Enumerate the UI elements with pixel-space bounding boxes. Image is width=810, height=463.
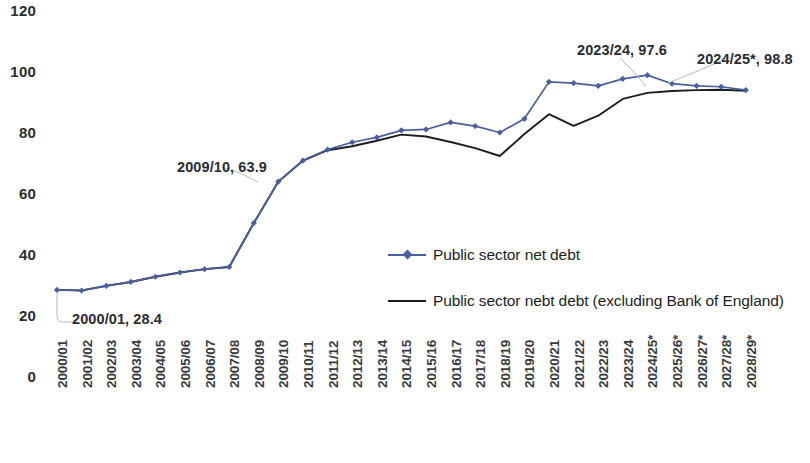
leader-line-2000 [57,292,72,322]
legend-label: Public sector net debt [433,246,580,264]
x-tick-2012-13: 2012/13 [350,340,365,388]
data-point-marker [743,87,749,93]
x-tick-2022-23: 2022/23 [596,340,611,388]
x-tick-2020-21: 2020/21 [547,340,562,388]
data-point-marker [472,123,478,129]
x-tick-2002-03: 2002/03 [104,340,119,388]
data-label-2000-01: 2000/01, 28.4 [72,311,162,327]
legend-swatch-line-icon [388,248,426,262]
data-point-marker [620,76,626,82]
legend-item-public-sector-net-debt-ex-boe: Public sector nebt debt (excluding Bank … [388,286,803,316]
legend-label: Public sector nebt debt (excluding Bank … [433,292,784,310]
x-tick-2014-15: 2014/15 [399,340,414,388]
y-tick-120: 120 [2,2,36,19]
data-point-marker [644,72,650,78]
y-tick-40: 40 [2,246,36,263]
x-tick-2017-18: 2017/18 [473,340,488,388]
x-tick-2024-25-: 2024/25* [645,335,660,388]
data-point-marker [128,279,134,285]
x-tick-2025-26-: 2025/26* [670,335,685,388]
leader-line-2023 [620,58,646,86]
data-point-marker [177,269,183,275]
x-tick-2023-24: 2023/24 [621,340,636,388]
data-point-marker [79,287,85,293]
x-tick-2004-05: 2004/05 [153,340,168,388]
line-chart: 120100806040200 2000/012001/022002/03200… [0,0,810,463]
data-point-marker [202,266,208,272]
data-point-marker [398,127,404,133]
x-tick-2003-04: 2003/04 [129,340,144,388]
x-tick-2009-10: 2009/10 [276,340,291,388]
x-tick-2008-09: 2008/09 [252,340,267,388]
x-tick-2001-02: 2001/02 [80,340,95,388]
x-tick-2013-14: 2013/14 [375,340,390,388]
x-tick-2007-08: 2007/08 [227,340,242,388]
x-tick-2028-29-: 2028/29* [744,335,759,388]
legend-item-public-sector-net-debt: Public sector net debt [388,240,803,270]
x-tick-2027-28-: 2027/28* [719,335,734,388]
x-tick-2015-16: 2015/16 [424,340,439,388]
data-label-2024-25: 2024/25*, 98.8 [697,51,793,67]
x-tick-2000-01: 2000/01 [55,340,70,388]
y-tick-0: 0 [2,368,36,385]
x-tick-2010-11: 2010/11 [301,341,316,388]
data-point-marker [448,119,454,125]
x-tick-2019-20: 2019/20 [522,340,537,388]
legend-swatch-line-icon [388,294,426,308]
x-tick-2016-17: 2016/17 [449,340,464,388]
data-point-marker [571,80,577,86]
data-point-marker [103,283,109,289]
data-point-marker [423,126,429,132]
data-point-marker [349,139,355,145]
plot-area [0,0,810,463]
y-tick-80: 80 [2,124,36,141]
data-point-marker [694,83,700,89]
x-tick-2011-12: 2011/12 [326,341,341,388]
y-tick-60: 60 [2,185,36,202]
data-label-2023-24: 2023/24, 97.6 [577,42,667,58]
x-tick-2026-27-: 2026/27* [695,335,710,388]
x-tick-2006-07: 2006/07 [203,340,218,388]
data-point-marker [595,83,601,89]
data-label-2009-10: 2009/10, 63.9 [177,159,267,175]
x-tick-2021-22: 2021/22 [572,340,587,388]
chart-legend: Public sector net debt Public sector neb… [388,240,803,332]
y-tick-100: 100 [2,63,36,80]
y-tick-20: 20 [2,307,36,324]
x-tick-2018-19: 2018/19 [498,340,513,388]
x-tick-2005-06: 2005/06 [178,340,193,388]
data-point-marker [152,274,158,280]
